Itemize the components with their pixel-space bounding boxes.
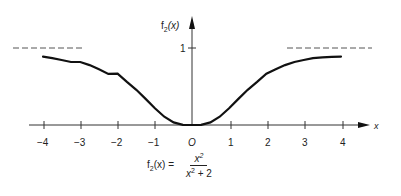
x-axis-label: x [373, 121, 379, 131]
x-tick-label: 3 [302, 137, 308, 148]
origin-label: O [188, 137, 196, 148]
x-axis-arrow-icon [358, 122, 370, 128]
formula-numerator: x2 [190, 152, 207, 166]
formula-denominator: x2 + 2 [182, 166, 216, 179]
x-tick-label: −1 [148, 137, 160, 148]
x-tick-label: −4 [37, 137, 49, 148]
y-axis-arrow-icon [189, 16, 195, 29]
x-tick-label: 2 [265, 137, 271, 148]
y-axis-label: f2(x) [161, 20, 179, 33]
x-tick-label: −2 [111, 137, 123, 148]
formula-fraction: x2 x2 + 2 [182, 152, 216, 180]
x-tick-label: 4 [340, 137, 346, 148]
x-tick-label: 1 [228, 137, 234, 148]
function-formula: f2(x) = x2 x2 + 2 [147, 152, 216, 180]
x-tick-label: −3 [74, 137, 86, 148]
y-tick-label-1: 1 [180, 43, 186, 54]
formula-lhs: f2(x) = [147, 159, 174, 172]
